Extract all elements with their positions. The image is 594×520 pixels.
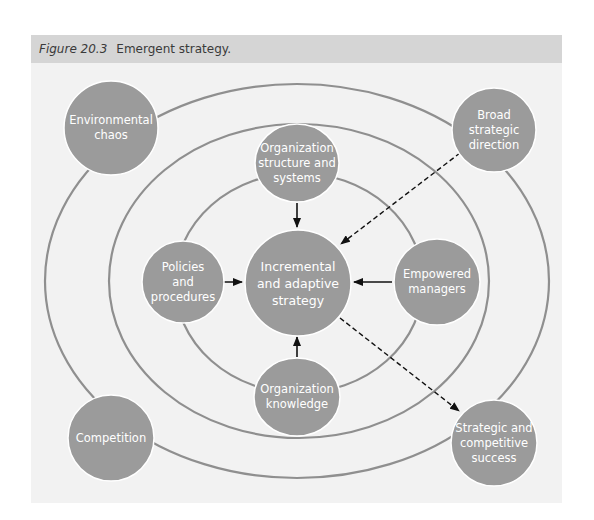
emergent-strategy-diagram bbox=[0, 0, 594, 520]
node-competition bbox=[68, 395, 154, 481]
node-organization-knowledge bbox=[254, 358, 340, 436]
node-environmental-chaos bbox=[64, 81, 158, 175]
node-broad-strategic-direction bbox=[452, 88, 536, 172]
node-strategic-success bbox=[451, 400, 537, 486]
node-empowered-managers bbox=[394, 239, 480, 325]
node-incremental-strategy bbox=[245, 230, 351, 336]
dashed-arrow-strategy-to-success bbox=[340, 318, 459, 411]
node-organization-structure bbox=[255, 124, 339, 202]
dashed-arrow-direction-to-strategy bbox=[341, 153, 460, 244]
node-policies-procedures bbox=[142, 241, 224, 323]
